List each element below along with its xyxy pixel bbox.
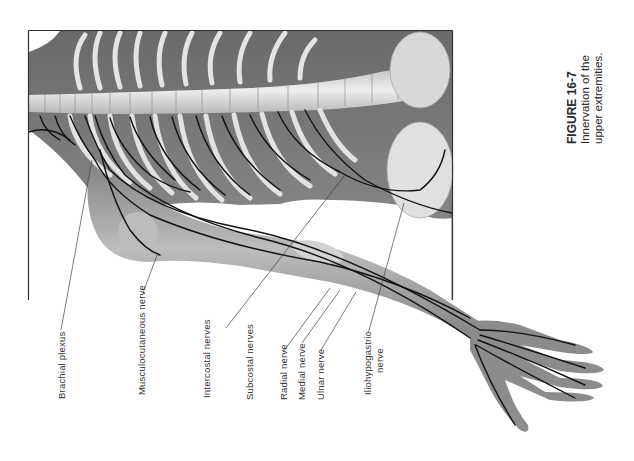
- figure-caption: FIGURE 16-7 Innervation of the upper ext…: [565, 53, 605, 144]
- label-radial-nerve: Radial nerve: [278, 344, 289, 400]
- label-ulnar-nerve: Ulnar nerve: [315, 349, 326, 400]
- label-intercostal-nerves: Intercostal nerves: [201, 319, 212, 398]
- hand-shape: [470, 321, 604, 432]
- label-medial-nerve: Medial nerve: [296, 343, 307, 400]
- label-subcostal-nerves: Subcostal nerves: [244, 324, 255, 400]
- leader-medial: [302, 290, 340, 343]
- caption-line-1: Innervation of the: [579, 53, 592, 144]
- label-musculocutaneous-nerve: Musculocutaneous nerve: [136, 285, 147, 395]
- leader-ulnar: [321, 292, 356, 350]
- label-iliohypogastric-nerve: Iliohypogastric: [362, 331, 373, 395]
- label-brachial-plexus: Brachial plexus: [56, 332, 67, 399]
- figure-number: FIGURE 16-7: [565, 53, 579, 144]
- leader-brachial-plexus: [61, 160, 92, 330]
- label-iliohypogastric-nerve-line2: nerve: [374, 348, 385, 373]
- caption-line-2: upper extremities.: [592, 53, 605, 144]
